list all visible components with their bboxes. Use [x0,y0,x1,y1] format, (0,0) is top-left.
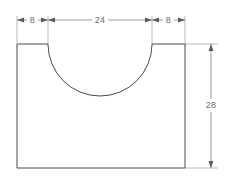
dimension-right-shoulder: 8 [152,14,185,26]
arrowhead-left-shoulder-end [41,18,48,23]
arrowhead-right-shoulder-end [178,18,185,23]
arrowhead-right-shoulder-start [152,18,159,23]
dimension-label-right-shoulder: 8 [166,15,171,25]
dimension-notch-width: 24 [48,14,152,26]
drawing-svg: 8 24 8 28 [0,0,232,178]
dimension-left-shoulder: 8 [17,14,48,26]
technical-drawing-canvas: 8 24 8 28 [0,0,232,178]
dimension-overall-height: 28 [203,44,219,168]
arrowhead-overall-height-top [209,44,214,51]
arrowhead-notch-width-end [145,18,152,23]
dimension-label-overall-height: 28 [206,100,217,110]
arrowhead-left-shoulder-start [17,18,24,23]
part-outline-path [17,44,185,168]
dimension-label-left-shoulder: 8 [30,15,35,25]
dimension-label-notch-width: 24 [95,15,106,25]
arrowhead-notch-width-start [48,18,55,23]
arrowhead-overall-height-bottom [209,161,214,168]
